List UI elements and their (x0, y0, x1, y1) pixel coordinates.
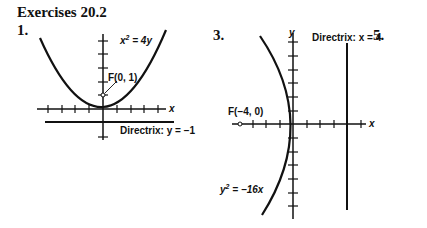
x-axis-label-1: x (168, 103, 175, 114)
focus-label-1: F(0, 1) (108, 72, 137, 83)
figures: x2 = 4y F(0, 1) x Directrix: y = −1 (0, 0, 427, 228)
directrix-label-3: Directrix: x = 4 (312, 32, 382, 43)
directrix-label-1: Directrix: y = −1 (120, 125, 195, 136)
equation-1: x2 = 4y (119, 34, 152, 46)
graph-1 (37, 30, 174, 140)
y-axis-label-3: y (288, 27, 295, 38)
parabola-curve (260, 36, 291, 215)
x-axis-label-3: x (368, 118, 375, 129)
equation-3: y2 = −16x (219, 183, 264, 195)
focus-point (101, 93, 105, 97)
focus-label-3: F(−4, 0) (228, 106, 263, 117)
focus-point (238, 122, 242, 126)
